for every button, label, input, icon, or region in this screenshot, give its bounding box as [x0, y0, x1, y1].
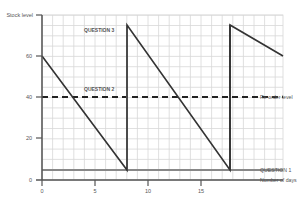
question-3-label: QUESTION 3: [84, 27, 115, 33]
x-axis-title: Number of days: [260, 177, 297, 183]
y-tick-label-20: 20: [26, 135, 32, 141]
y-tick-label-0: 0: [29, 177, 32, 183]
x-tick-label-15: 15: [198, 188, 204, 194]
y-axis-title: Stock level: [6, 12, 33, 18]
y-tick-label-40: 40: [26, 94, 32, 100]
stock-level-chart: Stock level 60 40 20 0 0 5 10 15 QUESTIO…: [0, 0, 307, 205]
question-2-label: QUESTION 2: [84, 86, 115, 92]
y-tick-label-60: 60: [26, 53, 32, 59]
x-tick-label-5: 5: [93, 188, 96, 194]
x-tick-label-10: 10: [145, 188, 151, 194]
question-1-label: QUESTION 1: [260, 167, 292, 173]
reorder-level-label: Re-order level: [260, 94, 293, 100]
x-tick-label-0: 0: [40, 188, 43, 194]
